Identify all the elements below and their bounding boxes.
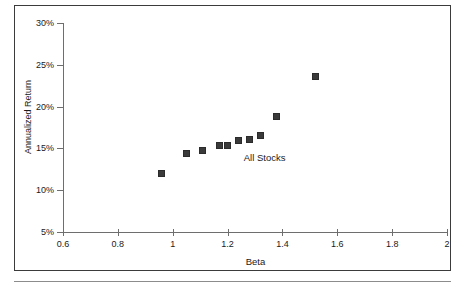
x-tick-label: 1 xyxy=(153,239,193,249)
x-tick xyxy=(337,229,338,236)
y-tick-label-wrap: 30% xyxy=(4,19,54,28)
data-point xyxy=(199,147,206,154)
x-tick xyxy=(228,229,229,236)
x-tick-label: 1.8 xyxy=(372,239,412,249)
y-tick-label-wrap: 10% xyxy=(4,186,54,195)
x-axis-title: Beta xyxy=(63,256,448,267)
series-annotation-all-stocks: All Stocks xyxy=(244,151,286,162)
data-point xyxy=(183,150,190,157)
y-tick xyxy=(57,107,64,108)
figure: 5%10%15%20%25%30% 0.60.811.21.41.61.82 A… xyxy=(0,0,466,286)
data-point xyxy=(158,170,165,177)
x-tick-label: 1.4 xyxy=(262,239,302,249)
data-point xyxy=(235,137,242,144)
data-point xyxy=(216,142,223,149)
y-tick xyxy=(57,23,64,24)
data-point xyxy=(273,113,280,120)
x-tick-label: 2 xyxy=(427,239,466,249)
y-tick xyxy=(57,65,64,66)
data-point xyxy=(257,132,264,139)
x-tick xyxy=(282,229,283,236)
x-tick-label: 1.2 xyxy=(208,239,248,249)
y-tick-label-wrap: 5% xyxy=(4,228,54,237)
x-tick xyxy=(392,229,393,236)
data-point xyxy=(312,73,319,80)
x-tick xyxy=(447,229,448,236)
plot-area: 5%10%15%20%25%30% 0.60.811.21.41.61.82 A… xyxy=(0,0,466,286)
data-point xyxy=(224,142,231,149)
y-axis-title: Annualized Return xyxy=(23,47,33,187)
y-axis-line xyxy=(63,23,64,233)
x-tick-label: 0.8 xyxy=(98,239,138,249)
x-tick-label: 1.6 xyxy=(317,239,357,249)
y-tick xyxy=(57,148,64,149)
data-point xyxy=(246,136,253,143)
y-tick-label: 10% xyxy=(8,186,54,195)
x-axis-line xyxy=(63,232,448,233)
x-tick xyxy=(118,229,119,236)
y-tick xyxy=(57,190,64,191)
x-tick-label: 0.6 xyxy=(43,239,83,249)
x-tick xyxy=(63,229,64,236)
x-tick xyxy=(173,229,174,236)
bottom-divider xyxy=(14,281,451,282)
y-tick-label: 5% xyxy=(8,228,54,237)
y-tick-label: 30% xyxy=(8,19,54,28)
